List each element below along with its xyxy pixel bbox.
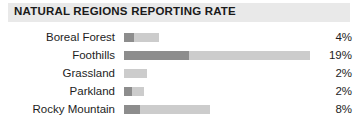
bar-track — [124, 51, 310, 60]
bar-track — [124, 105, 210, 114]
chart-row: Grassland 2% — [0, 64, 358, 82]
page-title: NATURAL REGIONS REPORTING RATE — [14, 5, 236, 17]
row-value: 8% — [312, 100, 352, 118]
bar-chart: Boreal Forest 4% Foothills 19% Grassland… — [0, 28, 358, 118]
chart-row: Rocky Mountain 8% — [0, 100, 358, 118]
bar-segment-light — [140, 105, 210, 114]
bar-segment-light — [124, 69, 147, 78]
bar-track — [124, 69, 147, 78]
bar-segment-dark — [124, 51, 189, 60]
row-label: Boreal Forest — [0, 28, 115, 46]
row-value: 19% — [312, 46, 352, 64]
bar-track — [124, 33, 159, 42]
row-label: Grassland — [0, 64, 115, 82]
bar-segment-light — [189, 51, 310, 60]
row-label: Foothills — [0, 46, 115, 64]
bar-segment-dark — [124, 87, 132, 96]
row-value: 2% — [312, 64, 352, 82]
bar-segment-light — [132, 87, 144, 96]
row-value: 2% — [312, 82, 352, 100]
row-label: Rocky Mountain — [0, 100, 115, 118]
chart-row: Parkland 2% — [0, 82, 358, 100]
bar-segment-light — [134, 33, 159, 42]
row-value: 4% — [312, 28, 352, 46]
natural-regions-reporting-rate-panel: NATURAL REGIONS REPORTING RATE Boreal Fo… — [0, 0, 358, 136]
chart-row: Boreal Forest 4% — [0, 28, 358, 46]
bar-segment-dark — [124, 33, 134, 42]
row-label: Parkland — [0, 82, 115, 100]
bar-track — [124, 87, 144, 96]
bar-segment-dark — [124, 105, 140, 114]
chart-row: Foothills 19% — [0, 46, 358, 64]
